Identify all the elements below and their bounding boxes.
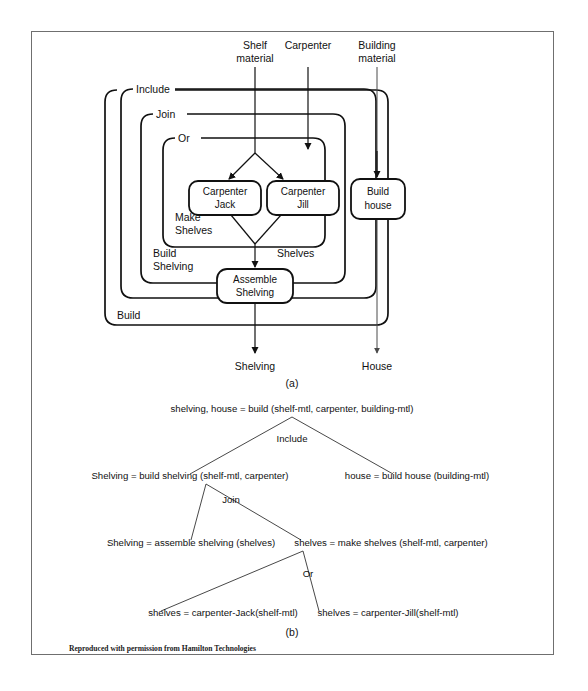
figure-canvas: Shelf material Carpenter Building materi… [31, 31, 554, 655]
container-build-shelving-label-line1: Build [153, 247, 177, 259]
figure-page: Shelf material Carpenter Building materi… [0, 0, 588, 691]
tree-node-build-house: house = build house (building-mtl) [345, 470, 489, 481]
container-include-label: Include [136, 83, 170, 95]
container-make-shelves-label-line2: Shelves [175, 224, 212, 236]
container-build-shelving-label-line2: Shelving [153, 260, 193, 272]
input-label-shelf-material-line1: Shelf [243, 39, 267, 51]
tree-edge-root-to-build-shelving [190, 417, 292, 474]
box-build-house-line1: Build [367, 186, 389, 197]
input-label-building-material-line2: material [358, 52, 395, 64]
input-label-shelf-material: Shelf material [236, 39, 273, 64]
container-join-label: Join [156, 108, 175, 120]
tree-node-make-shelves: shelves = make shelves (shelf-mtl, carpe… [294, 537, 487, 548]
input-label-building-material: Building material [358, 39, 396, 64]
input-label-building-material-line1: Building [358, 39, 396, 51]
tree-node-root: shelving, house = build (shelf-mtl, carp… [171, 403, 414, 414]
tree-edge-root-to-build-house [292, 417, 393, 474]
label-shelves: Shelves [277, 247, 314, 259]
caption-part-b: (b) [286, 626, 299, 638]
box-carpenter-jill-line2: Jill [297, 199, 309, 210]
input-label-shelf-material-line2: material [236, 52, 273, 64]
figure-credit: Reproduced with permission from Hamilton… [69, 644, 256, 653]
tree-node-carpenter-jill: shelves = carpenter-Jill(shelf-mtl) [317, 607, 458, 618]
container-build-label-text: Build [117, 309, 141, 321]
box-carpenter-jill-line1: Carpenter [281, 186, 326, 197]
tree-operator-include: Include [277, 433, 308, 444]
input-label-carpenter-line1: Carpenter [285, 39, 332, 51]
tree-edge-to-assemble-shelving [191, 484, 206, 540]
flow-to-carpenter-jill [255, 153, 283, 179]
input-label-carpenter: Carpenter [285, 39, 332, 51]
tree-operator-or: Or [303, 568, 314, 579]
output-label-house: House [362, 360, 393, 372]
tree-edge-to-carpenter-jill [303, 551, 319, 611]
container-or-label: Or [178, 132, 190, 144]
box-build-house[interactable] [351, 179, 405, 219]
tree-node-carpenter-jack: shelves = carpenter-Jack(shelf-mtl) [148, 607, 298, 618]
tree-edge-to-make-shelves [206, 484, 301, 540]
box-build-house-line2: house [364, 200, 392, 211]
tree-node-assemble-shelving: Shelving = assemble shelving (shelves) [107, 537, 275, 548]
flow-from-carpenter-jill [255, 215, 281, 244]
tree-edge-to-carpenter-jack [161, 551, 303, 611]
caption-part-a: (a) [286, 377, 299, 389]
box-assemble-shelving-line2: Shelving [236, 287, 274, 298]
flow-from-carpenter-jack [231, 215, 255, 244]
box-assemble-shelving-line1: Assemble [233, 274, 277, 285]
flow-to-carpenter-jack [229, 153, 255, 179]
output-label-shelving: Shelving [235, 360, 275, 372]
tree-node-build-shelving: Shelving = build shelving (shelf-mtl, ca… [91, 470, 288, 481]
box-carpenter-jack-line1: Carpenter [203, 186, 248, 197]
tree-operator-join: Join [222, 494, 240, 505]
box-carpenter-jack-line2: Jack [215, 199, 237, 210]
